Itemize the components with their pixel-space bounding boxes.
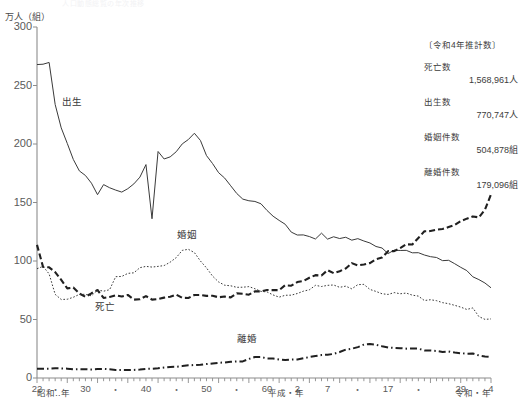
x-axis-tick-label: 30	[80, 383, 91, 394]
statistics-panel: 〔令和4年推計数〕 死亡数1,568,961人出生数770,747人婚姻件数50…	[424, 38, 520, 200]
statistics-item-value: 504,878組	[424, 143, 520, 156]
series-line-births	[37, 62, 491, 287]
x-axis-tick-label: 50	[201, 383, 212, 394]
vital-statistics-chart-figure: 人口動態総覧の年次推移 万人（組） 300250200150100500 22・…	[0, 0, 524, 412]
series-label-divorces: 離婚	[237, 331, 257, 345]
statistics-item-value: 179,096組	[424, 178, 520, 191]
x-axis-tick-label: 40	[141, 383, 152, 394]
statistics-panel-heading: 〔令和4年推計数〕	[424, 38, 520, 50]
series-lines-layer	[37, 62, 491, 370]
statistics-item-value: 770,747人	[424, 108, 520, 121]
statistics-item: 婚姻件数504,878組	[424, 130, 520, 156]
x-axis-tick-label: ・	[111, 383, 120, 396]
x-axis-era-label-reiwa: 令和・年	[455, 386, 491, 398]
x-axis-tick-label: ・	[414, 383, 423, 396]
y-axis-tick-label: 50	[2, 313, 32, 325]
statistics-item: 出生数770,747人	[424, 95, 520, 121]
y-axis-tick-label: 0	[2, 371, 32, 383]
statistics-item-name: 離婚件数	[424, 165, 520, 177]
statistics-item-value: 1,568,961人	[424, 73, 520, 86]
y-axis-tick-label: 200	[2, 137, 32, 149]
statistics-item: 死亡数1,568,961人	[424, 60, 520, 86]
x-axis-tick-label: 17	[383, 383, 394, 394]
x-axis-tick-label: ・	[172, 383, 181, 396]
y-axis-tick-label: 250	[2, 79, 32, 91]
series-line-deaths	[37, 194, 491, 299]
series-label-marriages: 婚姻	[177, 227, 197, 241]
series-label-deaths: 死亡	[95, 299, 115, 313]
x-axis-tick-label: ・	[353, 383, 362, 396]
statistics-item-name: 死亡数	[424, 60, 520, 72]
x-axis-tick-label: ・	[232, 383, 241, 396]
statistics-item: 離婚件数179,096組	[424, 165, 520, 191]
series-label-births: 出生	[62, 94, 82, 108]
statistics-item-name: 婚姻件数	[424, 130, 520, 142]
y-axis-tick-label: 100	[2, 254, 32, 266]
y-axis-tick-label: 300	[2, 20, 32, 32]
x-axis-era-label-showa: 昭和‥年	[37, 386, 70, 398]
series-line-divorces	[37, 344, 491, 370]
x-axis-tick-label: 7	[325, 383, 330, 394]
x-axis-era-label-heisei: 平成・年	[268, 386, 304, 398]
y-axis-tick-label: 150	[2, 196, 32, 208]
statistics-item-list: 死亡数1,568,961人出生数770,747人婚姻件数504,878組離婚件数…	[424, 60, 520, 191]
statistics-item-name: 出生数	[424, 95, 520, 107]
